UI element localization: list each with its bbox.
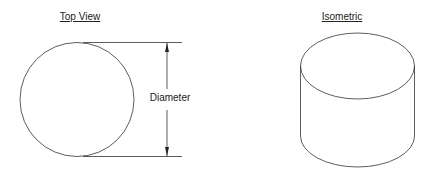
- diagram-canvas: [0, 0, 437, 177]
- arrowhead-bottom: [165, 147, 169, 156]
- arrowhead-top: [165, 43, 169, 52]
- diameter-label: Diameter: [150, 92, 191, 103]
- cylinder-top-ellipse: [301, 33, 415, 99]
- cylinder-bottom-arc: [301, 136, 415, 167]
- top-view-circle: [20, 43, 134, 157]
